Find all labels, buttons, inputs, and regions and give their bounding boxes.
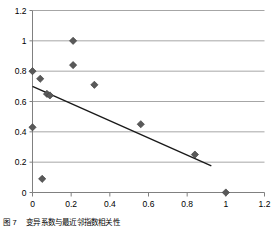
figure-container: 00.20.40.60.811.2 00.20.40.60.811.2 图 7 … bbox=[0, 0, 271, 231]
data-point-0-8 bbox=[91, 81, 98, 88]
trendline bbox=[33, 86, 212, 166]
figure-caption-text: 变异系数与最近邻指数相关性 bbox=[26, 218, 120, 227]
y-axis-tick-label: 0.2 bbox=[1, 157, 27, 167]
x-axis-tick-label: 0.6 bbox=[134, 199, 164, 209]
x-axis-tick-label: 1.2 bbox=[250, 199, 272, 209]
y-axis-tick-label: 0 bbox=[1, 188, 27, 198]
y-axis-tick-label: 0.4 bbox=[1, 127, 27, 137]
y-axis-tick-label: 1 bbox=[1, 36, 27, 46]
data-point-0-6 bbox=[70, 37, 77, 44]
data-point-0-3 bbox=[39, 175, 46, 182]
data-point-0-2 bbox=[37, 75, 44, 82]
trendline-path bbox=[33, 86, 212, 166]
x-axis-tick-label: 1 bbox=[211, 199, 241, 209]
gridlines-group bbox=[33, 11, 265, 163]
x-axis-tick-label: 0.4 bbox=[95, 199, 125, 209]
x-axis-tick-label: 0.2 bbox=[56, 199, 86, 209]
data-point-0-7 bbox=[70, 62, 77, 69]
x-axis-ticks-group bbox=[33, 193, 265, 197]
y-axis-tick-label: 0.6 bbox=[1, 97, 27, 107]
y-axis-tick-label: 1.2 bbox=[1, 6, 27, 16]
figure-caption-number: 图 7 bbox=[3, 218, 17, 227]
y-axis-tick-label: 0.8 bbox=[1, 66, 27, 76]
data-point-0-0 bbox=[29, 68, 36, 75]
chart-plot-area: 00.20.40.60.811.2 00.20.40.60.811.2 bbox=[0, 0, 271, 212]
scatter-chart-svg bbox=[0, 0, 271, 212]
figure-caption: 图 7 变异系数与最近邻指数相关性 bbox=[3, 217, 120, 228]
x-axis-tick-label: 0.8 bbox=[172, 199, 202, 209]
x-axis-tick-label: 0 bbox=[18, 199, 48, 209]
data-point-0-11 bbox=[222, 189, 229, 196]
data-point-0-1 bbox=[29, 124, 36, 131]
data-point-0-9 bbox=[137, 121, 144, 128]
data-points-group bbox=[29, 37, 230, 196]
